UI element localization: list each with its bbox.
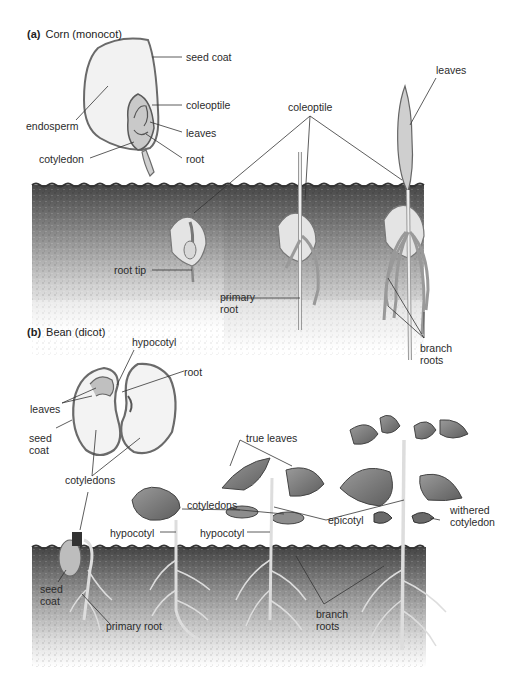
label-seed-coat-bean-1: seed	[29, 432, 52, 444]
label-root-bean: root	[184, 366, 202, 378]
panel-a-title: (a)Corn (monocot)	[27, 28, 122, 40]
label-withered-cotyledon-2: cotyledon	[450, 516, 495, 528]
label-hypocotyl-left: hypocotyl	[110, 527, 154, 539]
label-epicotyl: epicotyl	[328, 514, 364, 526]
label-seed-coat-bean-2: coat	[29, 444, 49, 456]
label-primary-root-b: primary root	[106, 620, 162, 632]
label-hypocotyl-mid: hypocotyl	[200, 527, 244, 539]
panel-a-letter: (a)	[27, 28, 40, 40]
panel-b-name: Bean (dicot)	[46, 326, 105, 338]
corn-seed	[84, 39, 158, 176]
germination-figure: (a)Corn (monocot) seed coat endosperm co…	[0, 0, 520, 680]
label-cotyledon-corn: cotyledon	[39, 153, 84, 165]
label-branch-roots-b-1: branch	[316, 608, 348, 620]
label-cotyledons-seedling: cotyledons	[187, 499, 237, 511]
label-branch-roots-b-2: roots	[316, 620, 339, 632]
illustration	[0, 0, 520, 680]
label-leaves-seed: leaves	[186, 127, 216, 139]
label-branch-roots-a-1: branch	[420, 342, 452, 354]
label-leaves-bean: leaves	[30, 403, 60, 415]
label-root-tip: root tip	[114, 264, 146, 276]
label-coleoptile-seedlings: coleoptile	[288, 101, 332, 113]
label-seed-coat-seedling-1: seed	[40, 583, 63, 595]
label-hypocotyl-seed: hypocotyl	[132, 336, 176, 348]
panel-a-name: Corn (monocot)	[45, 28, 121, 40]
label-root-corn: root	[186, 153, 204, 165]
label-cotyledons-seed: cotyledons	[65, 474, 115, 486]
label-primary-root-a-1: primary	[220, 291, 255, 303]
label-endosperm: endosperm	[26, 120, 79, 132]
label-coleoptile-seed: coleoptile	[186, 99, 230, 111]
label-seed-coat-seedling-2: coat	[40, 595, 60, 607]
label-seed-coat-corn: seed coat	[186, 51, 232, 63]
label-leaves-seedling: leaves	[436, 64, 466, 76]
label-withered-cotyledon-1: withered	[450, 504, 490, 516]
panel-b-title: (b)Bean (dicot)	[27, 326, 105, 338]
label-branch-roots-a-2: roots	[420, 354, 443, 366]
bean-seed	[73, 364, 175, 455]
label-primary-root-a-2: root	[220, 303, 238, 315]
panel-b-letter: (b)	[27, 326, 41, 338]
label-true-leaves: true leaves	[246, 432, 297, 444]
